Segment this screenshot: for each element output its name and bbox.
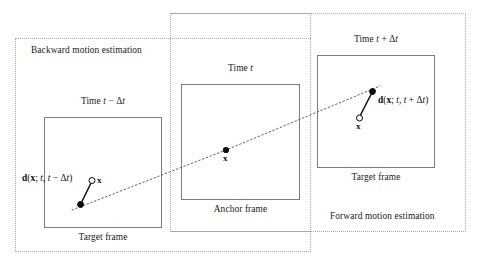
time-label-previous-prefix: Time: [81, 96, 103, 106]
time-label-next: Time t + Δt: [317, 34, 435, 44]
motion-estimation-diagram: Backward motion estimation Forward motio…: [0, 0, 481, 269]
frame-caption-previous: Target frame: [44, 232, 162, 242]
time-label-next-op: + Δ: [379, 34, 395, 44]
time-label-previous-op: − Δ: [106, 96, 122, 106]
frame-box-next: [317, 55, 435, 168]
time-label-current: Time t: [181, 63, 300, 73]
time-label-next-prefix: Time: [354, 34, 376, 44]
point-label-x-next: x: [356, 121, 361, 131]
vector-label-backward: d(x; t, t − Δt): [22, 173, 72, 183]
vector-label-forward-op: + Δ: [406, 95, 422, 105]
time-label-previous: Time t − Δt: [44, 96, 162, 106]
vector-label-backward-op: − Δ: [50, 173, 66, 183]
point-label-x-current: x: [223, 153, 228, 163]
region-backward-label: Backward motion estimation: [31, 45, 142, 55]
vector-label-forward-close-paren: ): [425, 95, 428, 105]
time-label-previous-var2: t: [122, 96, 125, 106]
frame-box-current: [181, 84, 300, 200]
region-forward-label: Forward motion estimation: [330, 211, 435, 221]
time-label-next-var2: t: [395, 34, 398, 44]
frame-caption-current: Anchor frame: [181, 204, 300, 214]
frame-caption-next: Target frame: [317, 172, 435, 182]
vector-label-forward: d(x; t, t + Δt): [378, 95, 428, 105]
time-label-current-prefix: Time: [228, 63, 250, 73]
point-label-x-previous: x: [97, 175, 102, 185]
vector-label-backward-close-paren: ): [69, 173, 72, 183]
time-label-current-var: t: [250, 63, 253, 73]
